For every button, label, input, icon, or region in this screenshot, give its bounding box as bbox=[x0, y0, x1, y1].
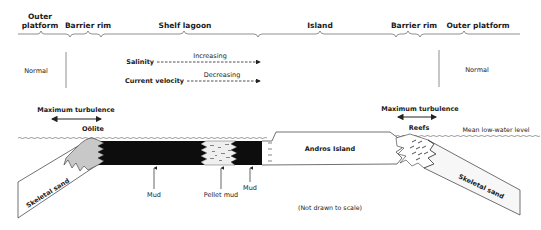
zone-outer-platform-right: Outer platform bbox=[446, 21, 509, 30]
reefs-label: Reefs bbox=[409, 124, 430, 132]
zone-headers: Outer platform Barrier rim Shelf lagoon … bbox=[22, 12, 510, 30]
andros-island-label: Andros Island bbox=[305, 145, 356, 153]
mud-label-2: Mud bbox=[243, 184, 257, 192]
zone-island: Island bbox=[307, 21, 333, 30]
zone-barrier-rim-left: Barrier rim bbox=[65, 21, 111, 30]
current-velocity-label: Current velocity bbox=[125, 77, 185, 85]
salinity-trend: Increasing bbox=[193, 52, 227, 60]
current-velocity-trend: Decreasing bbox=[204, 71, 241, 79]
mud-label-1: Mud bbox=[147, 191, 161, 199]
pellet-mud-label: Pellet mud bbox=[204, 191, 239, 199]
water-level-line-left bbox=[18, 138, 267, 139]
salinity-normal-right: Normal bbox=[465, 66, 489, 74]
scale-note: (Not drawn to scale) bbox=[298, 204, 362, 211]
facies-diagram: Outer platform Barrier rim Shelf lagoon … bbox=[0, 0, 541, 230]
zone-outer-platform-left-line1: Outer bbox=[28, 12, 52, 21]
zone-shelf-lagoon: Shelf lagoon bbox=[159, 21, 212, 30]
salinity-label: Salinity bbox=[126, 58, 154, 66]
reef-body bbox=[396, 134, 436, 168]
water-level-label: Mean low-water level bbox=[462, 126, 529, 133]
turbulence-label-right: Maximum turbulence bbox=[381, 105, 459, 113]
salinity-normal-left: Normal bbox=[24, 67, 48, 75]
turbulence-label-left: Maximum turbulence bbox=[37, 106, 115, 114]
zone-bracket-line bbox=[18, 31, 520, 37]
oolite-label: Oölite bbox=[82, 125, 105, 133]
zone-outer-platform-left-line2: platform bbox=[22, 21, 59, 30]
zone-barrier-rim-right: Barrier rim bbox=[391, 21, 437, 30]
mud-body-left bbox=[98, 141, 207, 165]
